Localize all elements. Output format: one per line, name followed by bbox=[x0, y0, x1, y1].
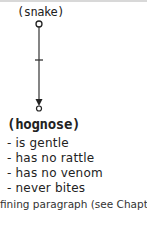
attribute-item: - has no rattle bbox=[7, 151, 103, 166]
child-node-label: (hognose) bbox=[7, 116, 80, 132]
arrow-head-icon bbox=[36, 99, 43, 106]
attribute-item: - never bites bbox=[7, 181, 103, 196]
attribute-list: - is gentle - has no rattle - has no ven… bbox=[7, 136, 103, 196]
caption-text: fining paragraph (see Chapter 2) bbox=[0, 198, 147, 210]
attribute-item: - is gentle bbox=[7, 136, 103, 151]
root-node-circle bbox=[36, 21, 42, 27]
attribute-item: - has no venom bbox=[7, 166, 103, 181]
child-node-circle bbox=[37, 106, 42, 111]
